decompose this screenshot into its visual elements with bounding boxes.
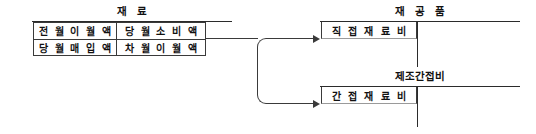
ledger-cell-current-month-consumption: 당 월 소 비 액 bbox=[117, 23, 205, 40]
account-divider-overhead bbox=[417, 87, 418, 127]
ledger-cell-prior-month-carryover: 전 월 이 월 액 bbox=[34, 23, 116, 40]
ledger-column-debit: 전 월 이 월 액 당 월 매 입 액 bbox=[34, 23, 117, 55]
flow-elbow-split bbox=[257, 38, 313, 104]
ledger-cell-next-month-carryover: 차 월 이 월 액 bbox=[117, 40, 205, 56]
ledger-column-credit: 당 월 소 비 액 차 월 이 월 액 bbox=[117, 23, 205, 55]
account-title-wip: 재 공 품 bbox=[320, 5, 520, 17]
entry-cell-indirect-material-cost: 간 접 재 료 비 bbox=[321, 87, 417, 104]
account-title-material: 재 료 bbox=[32, 5, 232, 17]
flow-arrow-to-indirect-material bbox=[313, 100, 320, 108]
entry-cell-direct-material-cost: 직 접 재 료 비 bbox=[321, 22, 417, 39]
ledger-cell-current-month-purchase: 당 월 매 입 액 bbox=[34, 40, 116, 56]
ledger-box-material: 전 월 이 월 액 당 월 매 입 액 당 월 소 비 액 차 월 이 월 액 bbox=[33, 22, 206, 56]
account-title-overhead: 제조간접비 bbox=[320, 70, 520, 82]
cost-flow-diagram: 재 료 전 월 이 월 액 당 월 매 입 액 당 월 소 비 액 차 월 이 … bbox=[0, 0, 536, 134]
account-divider-wip bbox=[417, 22, 418, 67]
flow-line-source-stub bbox=[206, 38, 258, 39]
flow-arrow-to-direct-material bbox=[313, 35, 320, 43]
